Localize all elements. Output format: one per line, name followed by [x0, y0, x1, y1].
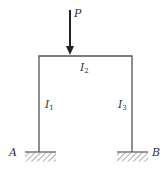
load-arrow — [66, 10, 74, 55]
load-label: P — [73, 7, 82, 20]
support-b-fixed — [117, 152, 148, 162]
support-a-label: A — [8, 146, 17, 159]
support-a-fixed — [25, 152, 56, 162]
left-column-label: I1 — [44, 98, 54, 112]
beam-label: I2 — [79, 61, 89, 75]
frame-diagram: P I2 I1 I3 A B — [0, 0, 167, 175]
right-column-label: I3 — [117, 98, 127, 112]
support-b-label: B — [151, 146, 160, 159]
